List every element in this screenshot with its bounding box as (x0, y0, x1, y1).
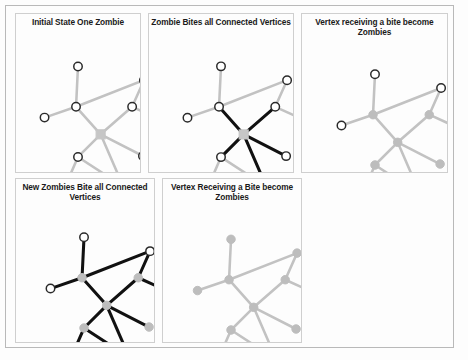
graph-node-zombie (281, 275, 289, 283)
graph-node-zombie (369, 110, 377, 118)
graph-edge (398, 142, 440, 164)
graph-node-healthy (74, 153, 82, 161)
graph-edge (341, 115, 373, 126)
graph-node-zombie (371, 161, 379, 169)
graph-node-zombie (227, 326, 235, 334)
graph-node-healthy (437, 84, 445, 92)
panel-bitten-become-zombies: Vertex receiving a bite become Zombies (301, 13, 448, 173)
graph-node-healthy (128, 103, 136, 111)
graph-node-zombie (145, 323, 153, 331)
graph-edge (45, 107, 76, 118)
graph-edge (375, 142, 398, 165)
graph-node-zombie (227, 235, 235, 243)
graph-edge (51, 278, 83, 289)
zombie-graph-figure: Initial State One Zombie Zombie Bites al… (0, 0, 468, 360)
graph-canvas-bitten-become-zombies (302, 14, 447, 172)
graph-edge (231, 307, 254, 330)
graph-node-healthy (283, 76, 291, 84)
graph-node-healthy (72, 103, 80, 111)
graph-node-zombie (293, 249, 301, 257)
graph-edge (219, 66, 221, 106)
graph-edge (229, 280, 254, 308)
graph-node-healthy (146, 247, 154, 255)
graph-node-zombie (193, 286, 201, 294)
graph-node-healthy (40, 113, 48, 121)
graph-canvas-all-become-zombies (163, 179, 301, 342)
graph-node-zombie (80, 324, 88, 332)
graph-edge (373, 115, 398, 143)
graph-edge (84, 305, 107, 328)
graph-node-zombie (134, 274, 142, 282)
graph-edge (187, 107, 219, 118)
graph-node-zombie (78, 274, 86, 282)
graph-node-healthy (337, 121, 345, 129)
graph-edge (254, 280, 286, 308)
graph-edge (76, 66, 78, 106)
graph-node-healthy (217, 153, 225, 161)
graph-node-healthy (74, 62, 82, 70)
graph-node-healthy (282, 152, 290, 160)
graph-edge (198, 280, 230, 291)
graph-edge (107, 278, 139, 306)
graph-canvas-new-zombies-bite (16, 179, 154, 342)
graph-node-healthy (217, 62, 225, 70)
panel-initial-state: Initial State One Zombie (15, 13, 141, 173)
panel-all-become-zombies: Vertex Receiving a Bite become Zombies (162, 178, 302, 343)
graph-edge (375, 165, 420, 172)
graph-node-zombie (292, 325, 300, 333)
graph-node-zombie (225, 275, 233, 283)
graph-edge (231, 330, 276, 342)
graph-node-healthy (371, 70, 379, 78)
graph-canvas-zombie-bites (149, 14, 293, 172)
graph-edge (229, 239, 231, 279)
graph-canvas-initial-state (16, 14, 140, 172)
graph-node-healthy (46, 284, 54, 292)
graph-node-healthy (183, 113, 191, 121)
graph-node-zombie (102, 301, 110, 309)
graph-edge (398, 115, 430, 143)
panel-zombie-bites: Zombie Bites all Connected Vertices (148, 13, 294, 173)
graph-node-zombie (425, 110, 433, 118)
graph-node-zombie (393, 138, 401, 146)
graph-node-zombie (96, 130, 105, 139)
panel-new-zombies-bite: New Zombies Bite all Connected Vertices (15, 178, 155, 343)
graph-edge (373, 74, 375, 114)
graph-node-zombie (249, 303, 257, 311)
graph-edge (82, 278, 107, 306)
graph-node-healthy (215, 103, 223, 111)
graph-node-healthy (271, 103, 279, 111)
graph-edge (82, 237, 84, 277)
graph-node-healthy (80, 233, 88, 241)
graph-node-zombie (239, 130, 248, 139)
graph-node-zombie (436, 160, 444, 168)
graph-edge (254, 307, 296, 329)
